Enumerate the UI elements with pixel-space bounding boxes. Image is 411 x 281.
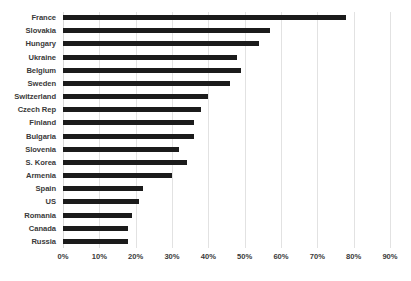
bar	[63, 94, 208, 99]
bar	[63, 239, 128, 244]
bar	[63, 55, 237, 60]
x-tick-label: 90%	[382, 252, 397, 261]
bar-row	[63, 198, 390, 205]
bar-series	[63, 14, 390, 245]
x-tick-label: 70%	[310, 252, 325, 261]
category-label: US	[0, 198, 60, 205]
category-label: Canada	[0, 225, 60, 232]
x-tick-label: 10%	[92, 252, 107, 261]
bar	[63, 186, 143, 191]
bar-row	[63, 93, 390, 100]
bar-row	[63, 212, 390, 219]
bar-row	[63, 238, 390, 245]
bar	[63, 160, 187, 165]
plot-area	[63, 12, 390, 248]
category-label: Armenia	[0, 172, 60, 179]
x-tick-label: 0%	[58, 252, 69, 261]
x-tick-label: 80%	[346, 252, 361, 261]
category-label: Sweden	[0, 80, 60, 87]
bar-row	[63, 54, 390, 61]
bar-row	[63, 225, 390, 232]
bar	[63, 81, 230, 86]
bar-row	[63, 133, 390, 140]
category-label: Spain	[0, 185, 60, 192]
category-label: Hungary	[0, 40, 60, 47]
bar-row	[63, 146, 390, 153]
x-tick-label: 50%	[237, 252, 252, 261]
category-label: Czech Rep	[0, 106, 60, 113]
bar	[63, 28, 270, 33]
category-label: Ukraine	[0, 54, 60, 61]
x-axis-tick-labels: 0%10%20%30%40%50%60%70%80%90%	[63, 252, 390, 266]
x-tick-label: 60%	[273, 252, 288, 261]
bar-row	[63, 14, 390, 21]
category-label: Romania	[0, 212, 60, 219]
bar-row	[63, 27, 390, 34]
bar	[63, 15, 346, 20]
gridline	[390, 12, 391, 248]
bar	[63, 213, 132, 218]
bar	[63, 173, 172, 178]
x-tick-label: 40%	[201, 252, 216, 261]
y-axis-category-labels: FranceSlovakiaHungaryUkraineBelgiumSwede…	[0, 14, 60, 245]
bar	[63, 68, 241, 73]
bar-row	[63, 80, 390, 87]
bar	[63, 134, 194, 139]
category-label: Russia	[0, 238, 60, 245]
category-label: France	[0, 14, 60, 21]
bar-chart: FranceSlovakiaHungaryUkraineBelgiumSwede…	[0, 0, 411, 281]
x-tick-label: 30%	[164, 252, 179, 261]
category-label: Switzerland	[0, 93, 60, 100]
bar	[63, 147, 179, 152]
bar	[63, 226, 128, 231]
bar-row	[63, 119, 390, 126]
category-label: Belgium	[0, 67, 60, 74]
category-label: Finland	[0, 119, 60, 126]
bar	[63, 41, 259, 46]
bar	[63, 199, 139, 204]
category-label: Slovenia	[0, 146, 60, 153]
bar-row	[63, 172, 390, 179]
category-label: Slovakia	[0, 27, 60, 34]
bar-row	[63, 40, 390, 47]
bar	[63, 107, 201, 112]
x-tick-label: 20%	[128, 252, 143, 261]
bar-row	[63, 106, 390, 113]
bar	[63, 120, 194, 125]
category-label: Bulgaria	[0, 133, 60, 140]
category-label: S. Korea	[0, 159, 60, 166]
bar-row	[63, 159, 390, 166]
bar-row	[63, 67, 390, 74]
bar-row	[63, 185, 390, 192]
